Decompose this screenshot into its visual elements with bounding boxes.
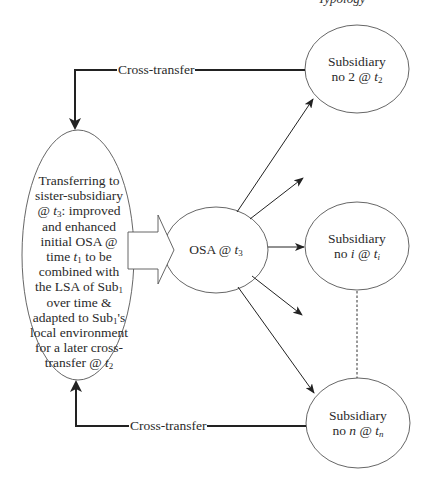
source-line: Transferring to — [24, 173, 134, 188]
arrow-osa-lower-short — [252, 276, 302, 315]
source-line: transfer @ t2 — [24, 355, 134, 370]
subsidiary-i-text: Subsidiary no i @ ti — [310, 231, 404, 261]
osa-node-text: OSA @ t3 — [170, 242, 262, 257]
arrow-osa-to-sub2 — [237, 99, 313, 212]
source-line: sister-subsidiary — [24, 188, 134, 203]
cross-transfer-top-path — [75, 70, 305, 128]
source-node-text: Transferring to sister-subsidiary @ t3: … — [24, 173, 134, 371]
source-line: combined with — [24, 264, 134, 279]
cross-transfer-top-label: Cross-transfer — [117, 62, 195, 77]
source-line: over time & — [24, 295, 134, 310]
source-line: time t1 to be — [24, 249, 134, 264]
arrow-osa-upper-short — [250, 178, 303, 219]
source-line: @ t3: improved — [24, 203, 134, 218]
source-line: adapted to Sub1's — [24, 310, 134, 325]
block-arrow — [128, 215, 174, 284]
subsidiary-n-text: Subsidiary no n @ tn — [311, 408, 405, 438]
source-line: for a later cross- — [24, 340, 134, 355]
arrow-osa-to-subn — [238, 287, 314, 393]
source-line: and enhanced — [24, 219, 134, 234]
cross-transfer-bottom-label: Cross-transfer — [129, 418, 207, 433]
source-line: initial OSA @ — [24, 234, 134, 249]
subsidiary-2-text: Subsidiary no 2 @ t2 — [310, 54, 404, 84]
source-line: local environment — [24, 325, 134, 340]
source-line: the LSA of Sub1 — [24, 279, 134, 294]
